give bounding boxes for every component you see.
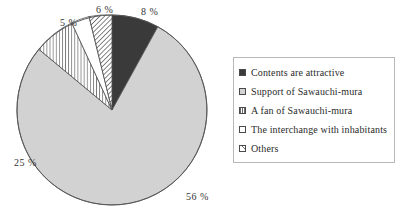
legend-item-others: Others — [239, 139, 390, 158]
pie-label-56-percent: 56 % — [186, 192, 209, 202]
legend-item-label: A fan of Sawauchi-mura — [251, 106, 352, 116]
legend-item-the-interchange-with-inhabitants: The interchange with inhabitants — [239, 120, 390, 139]
legend-item-label: Others — [251, 144, 279, 154]
pie-chart-figure: 8 % 6 % 5 % 25 % 56 % Contents are attra… — [0, 0, 409, 220]
pie-label-8-percent: 8 % — [141, 7, 158, 17]
pie-chart-svg — [0, 0, 230, 220]
legend-item-a-fan-of-sawauchi-mura: A fan of Sawauchi-mura — [239, 101, 390, 120]
pie-chart-area — [0, 0, 230, 220]
legend-swatch-icon — [239, 126, 246, 133]
legend-item-label: The interchange with inhabitants — [251, 125, 387, 135]
pie-label-25-percent: 25 % — [14, 158, 37, 168]
pie-label-5-percent: 5 % — [60, 18, 77, 28]
pie-label-6-percent: 6 % — [96, 5, 113, 15]
legend-item-contents-are-attractive: Contents are attractive — [239, 63, 390, 82]
legend-item-label: Support of Sawauchi-mura — [251, 87, 362, 97]
legend-item-label: Contents are attractive — [251, 68, 344, 78]
legend-swatch-icon — [239, 145, 246, 152]
legend: Contents are attractive Support of Sawau… — [233, 57, 395, 163]
legend-swatch-icon — [239, 69, 246, 76]
legend-swatch-icon — [239, 88, 246, 95]
legend-item-support-of-sawauchi-mura: Support of Sawauchi-mura — [239, 82, 390, 101]
legend-swatch-icon — [239, 107, 246, 114]
